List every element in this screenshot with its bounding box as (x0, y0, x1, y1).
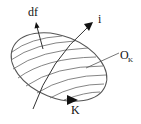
surface-ellipse (1, 20, 117, 115)
label-i: i (98, 12, 102, 26)
surface-diagram: df i O K K (0, 0, 141, 124)
label-o-subscript: K (128, 56, 133, 64)
label-df: df (28, 5, 38, 19)
surface-hatching (11, 36, 106, 100)
label-k: K (71, 103, 80, 117)
df-normal-arrow (35, 22, 44, 49)
